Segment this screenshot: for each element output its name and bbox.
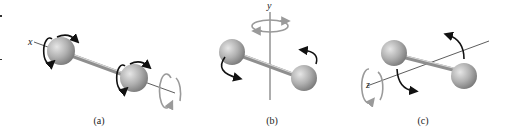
panel-b: y (b) [219,0,317,127]
atom-sphere [47,37,75,65]
axis-rotation-icon [176,78,181,101]
caption-a: (a) [93,115,104,127]
atom-sphere [291,65,317,91]
atom-sphere [451,63,477,89]
margin-mark [0,59,2,60]
panel-c: z (c) [362,35,489,127]
caption-b: (b) [266,115,278,127]
axis-label-z: z [365,79,370,90]
rotation-arrow-icon [397,69,414,91]
caption-c: (c) [417,115,428,127]
molecule-rotation-figure: x (a) y (b) z (c) [0,0,515,137]
rotation-arrow-icon [303,50,317,64]
axis-rotation-icon [378,72,383,100]
atom-sphere [120,64,148,92]
panel-a: x (a) [27,35,181,127]
axis-label-y: y [266,0,272,11]
axis-label-x: x [27,36,33,47]
atom-sphere [381,40,407,66]
margin-mark [0,15,2,17]
